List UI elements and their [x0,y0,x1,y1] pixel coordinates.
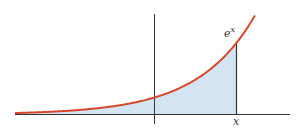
curve-label: ex [224,25,236,40]
exp-area-diagram: ex x [0,0,302,136]
x-marker-label: x [233,115,240,128]
